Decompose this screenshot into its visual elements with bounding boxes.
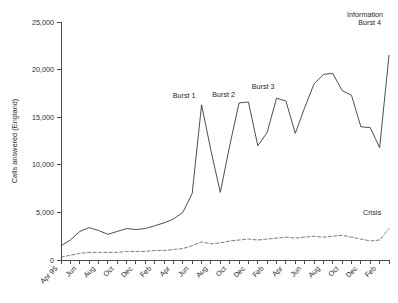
y-axis-title: Calls answered (England) [10,99,19,184]
annotation-burst-4: Burst 4 [358,18,381,27]
chart-canvas: 05,00010,00015,00020,00025,000Calls answ… [0,0,398,303]
x-tick-label: Oct [101,264,115,278]
annotation-crisis-label: Crisis [363,208,381,217]
y-tick-label: 10,000 [32,160,54,169]
x-tick-label: Apr [158,264,173,279]
annotation-burst-2: Burst 2 [212,90,235,99]
x-tick-label: Dec [119,264,135,280]
x-tick-label: Apr [270,264,285,279]
x-tick-label: Oct [214,264,228,278]
x-tick-label: Feb [363,264,378,279]
y-tick-label: 20,000 [32,65,54,74]
line-chart: 05,00010,00015,00020,00025,000Calls answ… [0,0,398,303]
x-tick-label: Aug [194,264,209,279]
x-tick-label: Dec [231,264,247,280]
x-tick-label: Oct [326,264,340,278]
annotation-burst-1: Burst 1 [173,91,196,100]
x-tick-label: Feb [138,264,153,279]
x-tick-label: Feb [250,264,265,279]
x-tick-label: Aug [81,264,96,279]
x-tick-label: Jun [289,264,304,279]
y-tick-label: 15,000 [32,113,54,122]
x-tick-label: Jun [176,264,191,279]
y-tick-label: 25,000 [32,18,54,27]
y-tick-label: 5,000 [36,208,54,217]
series-line-information [61,55,389,245]
y-tick-label: 0 [50,256,54,265]
series-line-crisis [61,229,389,258]
x-tick-label: Aug [306,264,321,279]
x-tick-label: Apr 95 [38,264,59,285]
x-tick-label: Dec [344,264,360,280]
annotation-burst-3: Burst 3 [252,82,275,91]
x-tick-label: Jun [64,264,79,279]
annotation-information-label: Information [347,10,383,19]
